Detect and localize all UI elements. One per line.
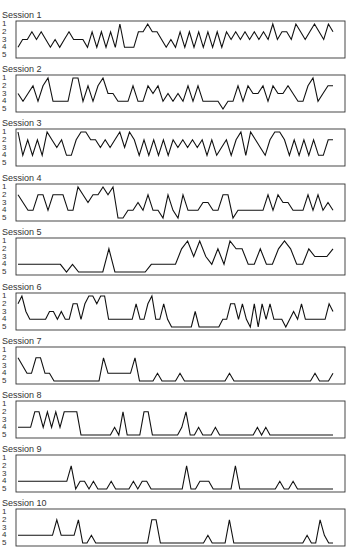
session-line bbox=[18, 241, 333, 272]
session-plot bbox=[0, 498, 357, 551]
session-plot bbox=[0, 173, 357, 227]
session-line bbox=[18, 412, 333, 435]
session-line bbox=[18, 296, 333, 327]
session-line bbox=[18, 132, 333, 155]
session-panel: Session 412345 bbox=[0, 173, 357, 227]
session-plot bbox=[0, 64, 357, 118]
plot-frame bbox=[16, 509, 345, 546]
session-plot bbox=[0, 336, 357, 390]
session-line bbox=[18, 358, 333, 381]
session-panel: Session 812345 bbox=[0, 390, 357, 444]
session-line bbox=[18, 466, 333, 489]
plot-frame bbox=[16, 129, 345, 166]
session-panel: Session 712345 bbox=[0, 336, 357, 390]
session-line bbox=[18, 24, 333, 47]
session-plot bbox=[0, 282, 357, 336]
plot-frame bbox=[16, 401, 345, 438]
plot-frame bbox=[16, 347, 345, 384]
session-plot bbox=[0, 390, 357, 444]
session-plot bbox=[0, 10, 357, 64]
plot-frame bbox=[16, 75, 345, 112]
plot-frame bbox=[16, 238, 345, 275]
session-panel: Session 912345 bbox=[0, 444, 357, 498]
session-panel: Session 212345 bbox=[0, 64, 357, 118]
session-line bbox=[18, 78, 333, 109]
session-panel: Session 312345 bbox=[0, 118, 357, 172]
session-panel: Session 612345 bbox=[0, 282, 357, 336]
session-panel: Session 112345 bbox=[0, 10, 357, 64]
session-line bbox=[18, 187, 333, 218]
session-plot bbox=[0, 444, 357, 498]
session-line bbox=[18, 520, 333, 543]
session-panel: Session 1012345 bbox=[0, 498, 357, 551]
session-panel: Session 512345 bbox=[0, 227, 357, 281]
plot-frame bbox=[16, 293, 345, 330]
session-plot bbox=[0, 118, 357, 172]
session-plot bbox=[0, 227, 357, 281]
